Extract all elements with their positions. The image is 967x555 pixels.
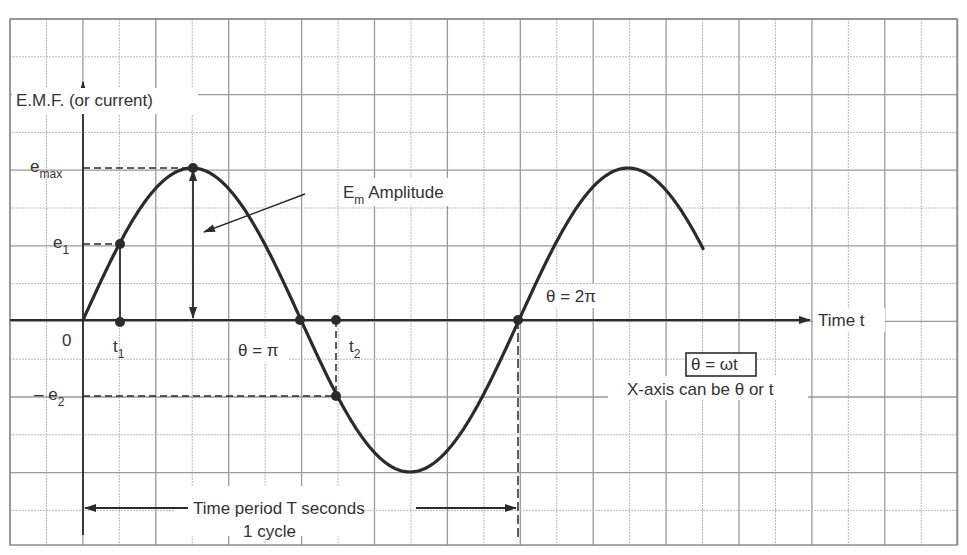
neg-e2-point bbox=[331, 391, 341, 401]
t1-point bbox=[115, 317, 125, 327]
marked-points bbox=[115, 163, 523, 401]
t2-label: t2 bbox=[349, 337, 361, 361]
emax-point bbox=[188, 163, 198, 173]
y-axis-label: E.M.F. (or current) bbox=[16, 91, 153, 110]
origin-label: 0 bbox=[62, 331, 71, 350]
theta-2pi-point bbox=[513, 315, 523, 325]
x-axis-note: X-axis can be θ or t bbox=[627, 380, 774, 399]
cycle-label: 1 cycle bbox=[243, 522, 296, 541]
x-axis-label: Time t bbox=[818, 311, 865, 330]
theta-2pi-label: θ = 2π bbox=[546, 287, 596, 306]
theta-pi-point bbox=[295, 315, 305, 325]
t2-point bbox=[331, 315, 341, 325]
omega-formula: θ = ωt bbox=[691, 355, 738, 374]
e1-point bbox=[115, 239, 125, 249]
period-label: Time period T seconds bbox=[193, 499, 365, 518]
theta-pi-label: θ = π bbox=[238, 341, 279, 360]
neg-e2-label: – e2 bbox=[34, 385, 65, 409]
e1-label: e1 bbox=[53, 233, 69, 257]
sine-wave-diagram: E.M.F. (or current) Time t 0 emax e1 – e… bbox=[0, 0, 967, 555]
